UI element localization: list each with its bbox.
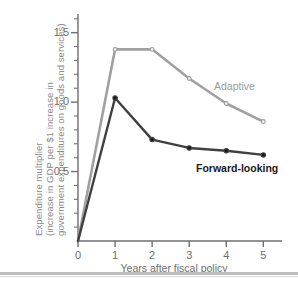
- series-line-adaptive: [78, 49, 263, 241]
- y-tick-label: 1.5: [43, 26, 69, 38]
- x-tick-label: 3: [179, 249, 199, 261]
- bottom-rule-secondary: [0, 276, 298, 277]
- data-point: [113, 96, 117, 100]
- data-point: [224, 102, 228, 106]
- y-tick-label: 0.5: [43, 165, 69, 177]
- x-tick-label: 4: [216, 249, 236, 261]
- data-point: [187, 146, 191, 150]
- y-tick-label: 1.0: [43, 95, 69, 107]
- series-label-adaptive: Adaptive: [214, 80, 255, 92]
- chart-figure: Expenditure multiplier (increase in GDP …: [0, 0, 298, 288]
- x-tick-label: 2: [142, 249, 162, 261]
- data-point: [261, 153, 265, 157]
- series-label-forward-looking: Forward-looking: [196, 162, 278, 174]
- data-point: [150, 47, 154, 51]
- x-tick-label: 1: [105, 249, 125, 261]
- x-tick-label: 5: [253, 249, 273, 261]
- chart-canvas: [62, 8, 286, 248]
- plot-area: [62, 8, 286, 248]
- data-point: [261, 120, 265, 124]
- x-tick-label: 0: [68, 249, 88, 261]
- y-axis-title-line-1: Expenditure multiplier: [33, 142, 44, 236]
- data-point: [150, 137, 154, 141]
- data-point: [113, 47, 117, 51]
- data-point: [224, 149, 228, 153]
- data-point: [187, 77, 191, 81]
- bottom-rule: [0, 272, 298, 275]
